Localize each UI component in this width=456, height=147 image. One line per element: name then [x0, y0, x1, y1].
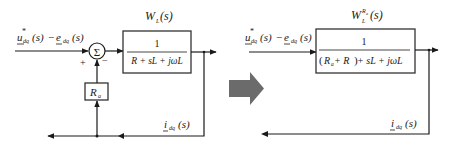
- u-superscript: *: [250, 27, 254, 36]
- block-title-argument: (s): [370, 8, 383, 22]
- i-argument: (s): [405, 117, 417, 130]
- ra-subscript: a: [98, 93, 101, 99]
- denominator: R + sL + jωL: [130, 56, 183, 66]
- output-arrowhead: [261, 131, 268, 137]
- block-title-superscript-sub: a: [366, 11, 368, 16]
- i-symbol: i: [391, 117, 394, 129]
- numerator: 1: [362, 36, 367, 47]
- minus-sign: −: [102, 55, 108, 66]
- plus-sign: +: [80, 57, 86, 68]
- plant-block-left: W L (s) 1 R + sL + jωL: [123, 9, 191, 73]
- left-output-label: i dq (s): [163, 118, 190, 131]
- u-argument: (s): [260, 31, 272, 44]
- plant-block-right: W L R a (s) 1 ( R a + R ) + sL + jωL: [316, 8, 415, 73]
- numerator: 1: [155, 38, 160, 49]
- e-symbol: e: [284, 31, 289, 43]
- block-title-subscript: L: [361, 18, 366, 24]
- left-diagram: u * dq (s) − e dq (s) Σ + − W L (s) 1: [15, 9, 216, 139]
- minus-symbol: −: [276, 31, 282, 43]
- e-subscript: dq: [291, 38, 297, 44]
- right-input-label: u * dq (s) − e dq (s): [245, 27, 312, 44]
- i-symbol: i: [164, 118, 167, 130]
- right-output-label: i dq (s): [390, 117, 417, 130]
- left-input-label: u * dq (s) − e dq (s): [17, 27, 84, 44]
- block-title-argument: (s): [160, 9, 173, 23]
- den-open-paren: (: [319, 54, 323, 67]
- block-diagram-canvas: u * dq (s) − e dq (s) Σ + − W L (s) 1: [0, 0, 456, 147]
- i-subscript: dq: [169, 125, 175, 131]
- e-argument: (s): [300, 31, 312, 44]
- transform-arrow-icon: [229, 72, 264, 105]
- u-subscript: dq: [23, 38, 29, 44]
- ra-gain-block: R a: [85, 83, 108, 100]
- u-superscript: *: [22, 27, 26, 36]
- den-rest: + sL + jωL: [357, 55, 403, 66]
- u-argument: (s): [32, 31, 44, 44]
- u-subscript: dq: [251, 38, 257, 44]
- sigma-icon: Σ: [94, 46, 100, 58]
- e-subscript: dq: [63, 38, 69, 44]
- e-argument: (s): [72, 31, 84, 44]
- den-ra: R: [323, 55, 330, 66]
- e-symbol: e: [56, 31, 61, 43]
- i-subscript: dq: [396, 124, 402, 130]
- block-title-w: W: [145, 9, 156, 23]
- i-argument: (s): [178, 118, 190, 131]
- den-plus-r: + R: [334, 55, 349, 66]
- minus-symbol: −: [48, 31, 54, 43]
- ra-symbol: R: [89, 86, 97, 98]
- right-diagram: u * dq (s) − e dq (s) W L R a (s) 1 ( R …: [245, 8, 438, 137]
- block-title-w: W: [351, 8, 362, 22]
